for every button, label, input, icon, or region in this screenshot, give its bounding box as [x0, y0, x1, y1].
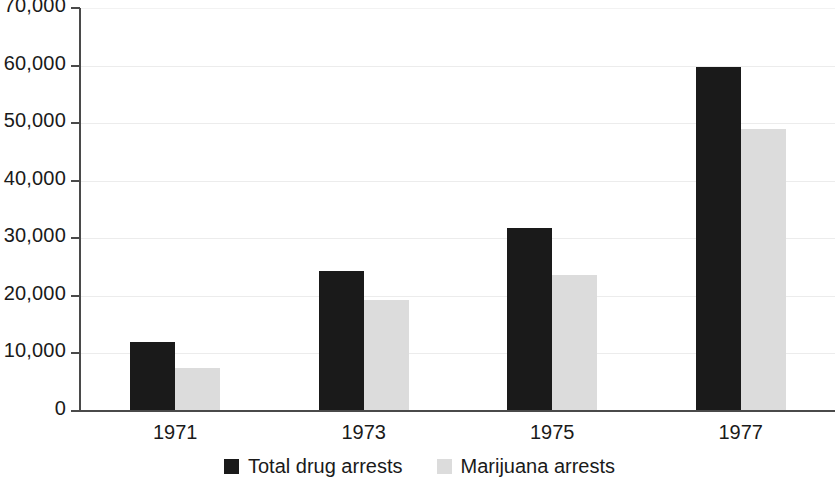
- legend-swatch-icon: [437, 459, 452, 474]
- y-axis-tick-label: 40,000: [4, 167, 66, 190]
- x-axis-tick-label: 1977: [719, 421, 764, 444]
- legend-item: Total drug arrests: [224, 455, 403, 478]
- bar-1977-series-1: [741, 129, 786, 411]
- y-axis-tick-label: 60,000: [4, 52, 66, 75]
- y-axis-tick-label: 50,000: [4, 109, 66, 132]
- legend-label: Marijuana arrests: [461, 455, 616, 478]
- legend-item: Marijuana arrests: [437, 455, 616, 478]
- y-axis-tick: [71, 352, 80, 354]
- x-axis-tick-label: 1971: [153, 421, 198, 444]
- bar-1973-series-1: [364, 300, 409, 411]
- y-axis-tick: [71, 122, 80, 124]
- y-axis-tick-label: 10,000: [4, 339, 66, 362]
- legend-swatch-icon: [224, 459, 239, 474]
- y-axis-tick: [71, 7, 80, 9]
- bar-1975-series-1: [552, 275, 597, 411]
- bar-1977-series-0: [696, 67, 741, 411]
- y-axis-tick: [71, 295, 80, 297]
- bar-1971-series-1: [175, 368, 220, 411]
- x-axis-tick-label: 1975: [530, 421, 575, 444]
- x-axis-tick-label: 1973: [342, 421, 387, 444]
- y-axis-tick: [71, 180, 80, 182]
- bar-chart: 010,00020,00030,00040,00050,00060,00070,…: [0, 0, 839, 492]
- legend-label: Total drug arrests: [248, 455, 403, 478]
- bar-1973-series-0: [319, 271, 364, 411]
- y-axis-tick: [71, 237, 80, 239]
- bar-1971-series-0: [130, 342, 175, 411]
- bar-1975-series-0: [507, 228, 552, 411]
- y-axis-tick: [71, 65, 80, 67]
- bars-layer: [81, 8, 835, 411]
- x-axis-line: [79, 410, 835, 412]
- y-axis-tick-label: 70,000: [4, 0, 66, 17]
- y-axis-tick-label: 20,000: [4, 282, 66, 305]
- y-axis-tick-label: 0: [55, 397, 66, 420]
- legend: Total drug arrestsMarijuana arrests: [0, 455, 839, 478]
- y-axis-tick-label: 30,000: [4, 224, 66, 247]
